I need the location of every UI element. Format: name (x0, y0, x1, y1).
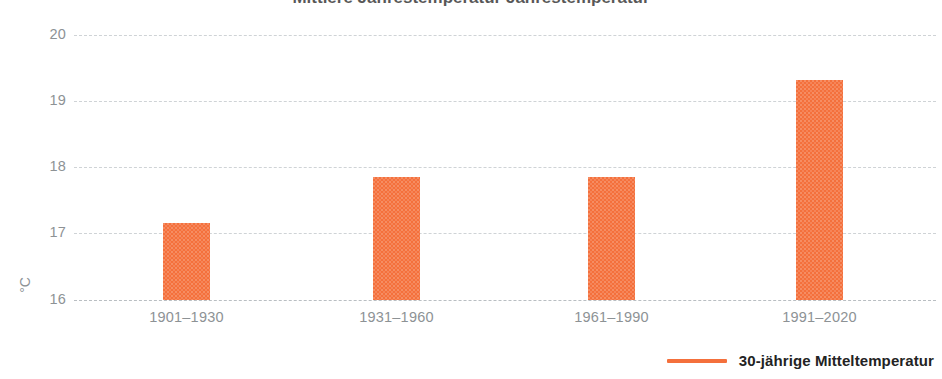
gridline-16-baseline (74, 300, 936, 301)
bar-1991-2020 (796, 80, 843, 300)
bar-1901-1930 (163, 223, 210, 300)
x-tick-label-1901-1930: 1901–1930 (111, 309, 262, 325)
x-tick-label-1991-2020: 1991–2020 (744, 309, 895, 325)
plot-area: 20 19 18 17 16 °C 1901–1930 1931–1960 19… (0, 0, 942, 379)
gridline-20 (74, 35, 936, 36)
y-tick-label-17: 17 (30, 224, 66, 240)
legend-line-swatch-icon (667, 359, 727, 363)
y-tick-label-18: 18 (30, 158, 66, 174)
x-tick-label-1961-1990: 1961–1990 (536, 309, 687, 325)
legend-label-mitteltemperatur: 30-jährige Mitteltemperatur (739, 352, 934, 369)
y-tick-label-20: 20 (30, 26, 66, 42)
y-tick-label-19: 19 (30, 92, 66, 108)
temperature-bar-chart: Mittlere Jahrestemperatur Jahrestemperat… (0, 0, 942, 379)
bar-1931-1960 (373, 177, 420, 300)
y-tick-label-16: 16 (30, 291, 66, 307)
y-axis-unit-label: °C (17, 255, 33, 315)
x-tick-label-1931-1960: 1931–1960 (321, 309, 472, 325)
chart-legend: 30-jährige Mitteltemperatur (667, 352, 934, 369)
bar-1961-1990 (588, 177, 635, 300)
